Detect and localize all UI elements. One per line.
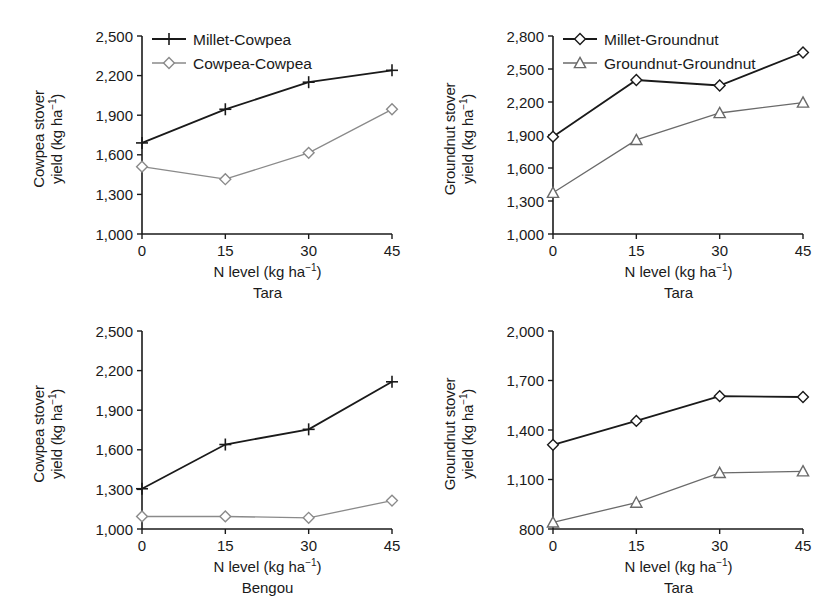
y-tick-label: 1,700 (506, 372, 544, 389)
legend-label: Cowpea-Cowpea (193, 55, 312, 72)
y-tick-label: 1,400 (506, 422, 544, 439)
legend-label: Millet-Groundnut (604, 31, 719, 48)
data-point-marker (797, 97, 808, 107)
plot-area-bottom-right: 8001,1001,4001,7002,0000153045Groundnut … (411, 295, 822, 589)
data-point-marker (136, 137, 148, 149)
x-tick-label: 0 (549, 537, 557, 554)
data-point-marker (137, 161, 148, 172)
y-tick-label: 2,800 (506, 28, 544, 45)
panel-caption: Tara (411, 579, 822, 596)
y-axis-label-line2: yield (kg ha−1) (47, 40, 65, 238)
x-tick-label: 15 (628, 537, 645, 554)
series-line-groundnut-groundnut (553, 471, 803, 522)
y-axis-label: Cowpea stoveryield (kg ha−1) (30, 335, 65, 533)
y-axis-label-line1: Cowpea stover (30, 385, 47, 482)
x-tick-label: 30 (711, 242, 728, 259)
data-point-marker (220, 174, 231, 185)
data-point-marker (386, 64, 398, 76)
chart-panel-bottom-right: 8001,1001,4001,7002,0000153045Groundnut … (411, 295, 822, 589)
y-tick-label: 2,500 (95, 28, 133, 45)
y-tick-label: 800 (519, 521, 544, 538)
y-tick-label: 2,200 (95, 67, 133, 84)
y-tick-label: 1,000 (95, 226, 133, 243)
data-point-marker (303, 147, 314, 158)
y-tick-label: 1,000 (506, 226, 544, 243)
plot-area-top-left: 1,0001,3001,6001,9002,2002,5000153045Mil… (0, 0, 411, 294)
series-line-millet-groundnut (553, 396, 803, 445)
y-axis-label-line1: Groundnut stover (441, 83, 458, 196)
x-tick-label: 45 (795, 537, 812, 554)
data-point-marker (714, 391, 725, 402)
y-axis-label-line2: yield (kg ha−1) (458, 40, 476, 238)
x-tick-label: 30 (300, 537, 317, 554)
plot-area-top-right: 1,0001,3001,6001,9002,2002,5002,80001530… (411, 0, 822, 294)
data-point-marker (631, 416, 642, 427)
legend-entry: Cowpea-Cowpea (152, 55, 312, 72)
x-tick-label: 15 (628, 242, 645, 259)
y-tick-label: 1,300 (95, 186, 133, 203)
y-tick-label: 1,900 (506, 127, 544, 144)
legend-label: Millet-Cowpea (193, 31, 292, 48)
y-axis-label-line2: yield (kg ha−1) (458, 335, 476, 533)
y-tick-label: 1,000 (95, 521, 133, 538)
x-tick-label: 45 (384, 537, 401, 554)
x-tick-label: 0 (549, 242, 557, 259)
y-axis-label-line2: yield (kg ha−1) (47, 335, 65, 533)
y-tick-label: 2,200 (506, 94, 544, 111)
y-tick-label: 1,600 (95, 146, 133, 163)
y-tick-label: 1,900 (95, 107, 133, 124)
y-axis-label: Cowpea stoveryield (kg ha−1) (30, 40, 65, 238)
panel-caption: Bengou (0, 579, 411, 596)
data-point-marker (631, 75, 642, 86)
data-point-marker (714, 80, 725, 91)
series-line-millet-cowpea (142, 382, 392, 489)
data-point-marker (631, 134, 642, 144)
data-point-marker (547, 187, 558, 197)
x-axis-label: N level (kg ha−1) (411, 262, 822, 280)
data-point-marker (219, 439, 231, 451)
series-line-millet-cowpea (142, 70, 392, 143)
x-axis-label: N level (kg ha−1) (411, 557, 822, 575)
data-point-marker (798, 392, 809, 403)
x-tick-label: 15 (217, 537, 234, 554)
legend-entry: Groundnut-Groundnut (563, 55, 756, 72)
data-point-marker (386, 376, 398, 388)
x-tick-label: 30 (711, 537, 728, 554)
series-line-cowpea-cowpea (142, 109, 392, 179)
chart-panel-bottom-left: 1,0001,3001,6001,9002,2002,5000153045Cow… (0, 295, 411, 589)
x-tick-label: 45 (795, 242, 812, 259)
y-tick-label: 1,100 (506, 471, 544, 488)
data-point-marker (220, 511, 231, 522)
y-tick-label: 2,500 (95, 323, 133, 340)
x-tick-label: 30 (300, 242, 317, 259)
legend-entry: Millet-Cowpea (152, 31, 292, 48)
chart-panel-top-left: 1,0001,3001,6001,9002,2002,5000153045Mil… (0, 0, 411, 294)
y-tick-label: 2,000 (506, 323, 544, 340)
y-axis-label-line1: Cowpea stover (30, 90, 47, 187)
y-tick-label: 1,600 (95, 441, 133, 458)
legend-label: Groundnut-Groundnut (604, 55, 756, 72)
x-tick-label: 45 (384, 242, 401, 259)
y-axis-label: Groundnut stoveryield (kg ha−1) (441, 40, 476, 238)
data-point-marker (387, 495, 398, 506)
data-point-marker (136, 483, 148, 495)
x-axis-label: N level (kg ha−1) (0, 262, 411, 280)
x-tick-label: 15 (217, 242, 234, 259)
y-tick-label: 2,500 (506, 61, 544, 78)
series-line-groundnut-groundnut (553, 103, 803, 193)
data-point-marker (219, 103, 231, 115)
data-point-marker (548, 131, 559, 142)
y-tick-label: 1,900 (95, 402, 133, 419)
data-point-marker (387, 104, 398, 115)
y-axis-label: Groundnut stoveryield (kg ha−1) (441, 335, 476, 533)
data-point-marker (631, 497, 642, 507)
x-tick-label: 0 (138, 537, 146, 554)
plot-area-bottom-left: 1,0001,3001,6001,9002,2002,5000153045Cow… (0, 295, 411, 589)
y-tick-label: 1,300 (95, 481, 133, 498)
x-axis-label: N level (kg ha−1) (0, 557, 411, 575)
y-tick-label: 1,300 (506, 193, 544, 210)
data-point-marker (303, 423, 315, 435)
data-point-marker (548, 439, 559, 450)
legend-entry: Millet-Groundnut (563, 31, 719, 48)
